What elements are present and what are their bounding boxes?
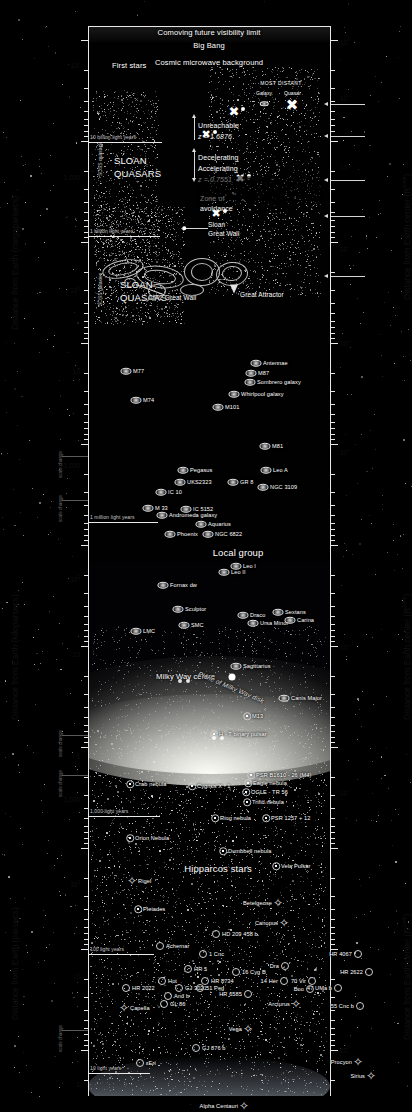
star-point <box>95 1032 96 1033</box>
star-point <box>122 890 123 891</box>
bright-star-marker: ✧ <box>243 1023 253 1035</box>
star-point <box>39 1096 40 1097</box>
star-point <box>200 1003 201 1004</box>
star-point <box>277 974 278 975</box>
star-point <box>39 292 40 293</box>
star-point <box>232 799 233 800</box>
star-point <box>159 797 160 798</box>
star-point <box>210 992 211 993</box>
star-point <box>159 850 160 851</box>
star-point <box>343 140 344 141</box>
star-point <box>162 1027 163 1028</box>
star-point <box>123 1057 124 1058</box>
star-point <box>112 1003 113 1004</box>
star-point <box>390 974 391 975</box>
star-point <box>157 891 158 892</box>
star-point <box>165 985 166 986</box>
star-point <box>60 439 61 440</box>
star-point <box>112 999 113 1000</box>
star-point <box>242 990 243 991</box>
bright-star-marker: ✧ <box>279 917 289 929</box>
star-point <box>256 996 257 997</box>
galaxy-label: Leo II <box>231 569 246 575</box>
axis-tick-minor <box>331 795 335 796</box>
star-point <box>197 972 198 973</box>
galaxy-label: Phoenix <box>177 531 198 537</box>
star-point <box>22 228 23 229</box>
star-point <box>154 997 155 998</box>
star-point <box>144 791 145 792</box>
star-point <box>56 659 57 660</box>
star-point <box>21 156 22 157</box>
star-point <box>92 836 93 837</box>
star-point <box>15 902 16 903</box>
star-point <box>318 801 319 802</box>
star-point <box>234 833 235 834</box>
star-point <box>217 836 218 837</box>
star-point <box>246 827 247 828</box>
star-point <box>147 922 148 923</box>
star-point <box>346 818 347 819</box>
star-point <box>168 901 169 902</box>
star-point <box>109 1033 110 1034</box>
star-point <box>153 1032 154 1033</box>
star-point <box>90 966 91 967</box>
star-point <box>101 959 102 960</box>
deep-sky-label: Trifid nebula <box>252 799 284 805</box>
star-point <box>196 935 197 936</box>
star-point <box>232 840 233 841</box>
star-point <box>48 840 49 841</box>
star-point <box>200 886 201 887</box>
star-point <box>288 970 289 971</box>
star-point <box>26 1065 27 1066</box>
star-point <box>171 810 172 811</box>
star-point <box>206 908 207 909</box>
star-point <box>324 835 325 836</box>
star-point <box>366 238 367 239</box>
star-point <box>307 968 308 969</box>
star-point <box>51 1000 52 1001</box>
star-point <box>164 1046 165 1047</box>
star-point <box>120 864 121 865</box>
axis-tick-minor <box>331 321 335 322</box>
axis-tick-minor <box>331 111 335 112</box>
star-point <box>360 885 361 886</box>
star-point <box>298 808 299 809</box>
star-point <box>138 894 139 895</box>
star-point <box>286 1011 287 1012</box>
star-point <box>113 796 114 797</box>
star-point <box>154 972 155 973</box>
star-point <box>167 953 168 954</box>
star-point <box>199 833 200 834</box>
star-point <box>131 975 132 976</box>
star-point <box>94 870 95 871</box>
star-point <box>276 913 277 914</box>
galaxy-marker <box>279 695 290 702</box>
star-point <box>97 888 98 889</box>
star-point <box>307 872 308 873</box>
star-point <box>180 841 181 842</box>
star-point <box>158 1024 159 1025</box>
star-point <box>157 879 158 880</box>
star-point <box>119 828 120 829</box>
star-point <box>115 1055 116 1056</box>
galaxy-label: Leo A <box>273 467 288 473</box>
star-point <box>303 1044 304 1045</box>
star-point <box>195 796 196 797</box>
star-point <box>226 974 227 975</box>
star-point <box>143 944 144 945</box>
scale-change-label: scale change <box>58 451 63 478</box>
star-point <box>213 922 214 923</box>
star-point <box>285 997 286 998</box>
star-point <box>242 959 243 960</box>
star-point <box>5 380 6 381</box>
star-point <box>113 1033 114 1034</box>
star-point <box>130 1026 131 1027</box>
star-point <box>192 851 193 852</box>
star-point <box>219 1042 220 1043</box>
star-point <box>77 1061 78 1062</box>
star-point <box>192 910 193 911</box>
star-point <box>191 847 192 848</box>
star-point <box>361 726 362 727</box>
galaxy-marker <box>285 617 296 624</box>
